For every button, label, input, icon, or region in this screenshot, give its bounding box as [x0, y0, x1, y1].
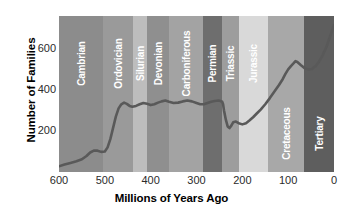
curve-path [59, 25, 334, 166]
x-tick-label-200: 200 [222, 174, 262, 186]
diversity-curve [59, 16, 334, 172]
x-tick-label-300: 300 [177, 174, 217, 186]
x-tick-label-0: 0 [314, 174, 343, 186]
x-tick-label-600: 600 [39, 174, 79, 186]
x-tick-label-400: 400 [131, 174, 171, 186]
geologic-diversity-chart: Number of Families 600 400 200 CambrianO… [0, 0, 343, 215]
y-tick-label-600: 600 [22, 42, 56, 54]
x-tick-label-500: 500 [85, 174, 125, 186]
y-tick-label-400: 400 [22, 83, 56, 95]
y-tick-label-200: 200 [22, 124, 56, 136]
x-axis-title: Millions of Years Ago [0, 192, 343, 204]
x-tick-label-100: 100 [268, 174, 308, 186]
plot-area: CambrianOrdovicianSilurianDevonianCarbon… [59, 16, 334, 172]
